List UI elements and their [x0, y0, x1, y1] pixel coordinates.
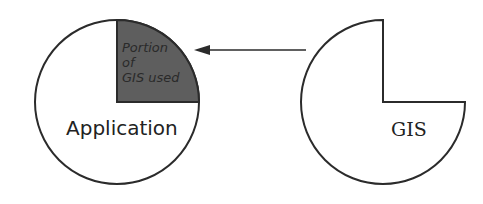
portion-line-1: Portion — [122, 40, 180, 55]
application-label: Application — [66, 116, 178, 140]
portion-line-2: of — [122, 55, 180, 70]
gis-shape — [301, 20, 465, 184]
portion-line-3: GIS used — [122, 70, 180, 85]
diagram-canvas — [0, 0, 483, 204]
portion-label: Portion of GIS used — [122, 40, 180, 85]
arrow-head-icon — [194, 45, 210, 55]
gis-label: GIS — [391, 118, 427, 140]
